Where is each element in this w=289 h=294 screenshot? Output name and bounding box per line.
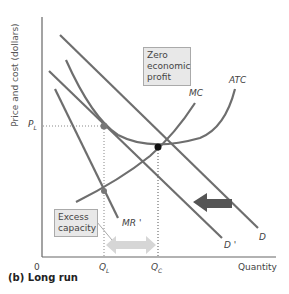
point-mc-mr-intersection xyxy=(101,188,107,194)
zero-profit-box: Zero economic profit xyxy=(143,47,191,86)
tick-q-c-sub: C xyxy=(158,267,162,274)
origin-label: 0 xyxy=(34,262,40,272)
point-long-run-equilibrium xyxy=(101,123,108,130)
point-min-atc xyxy=(155,144,162,151)
zero-profit-line1: Zero xyxy=(147,50,187,61)
chart-caption: (b) Long run xyxy=(8,272,78,283)
zero-profit-line2: economic xyxy=(147,61,187,72)
tick-p-l: PL xyxy=(28,119,37,131)
d-prime-label: D ' xyxy=(224,240,236,250)
y-axis-label: Price and cost (dollars) xyxy=(10,20,20,130)
d-label: D xyxy=(259,232,266,242)
mc-curve xyxy=(76,103,195,202)
excess-capacity-line2: capacity xyxy=(58,223,94,234)
chart-canvas xyxy=(0,0,289,294)
zero-profit-line3: profit xyxy=(147,72,187,83)
mr-label: MR ' xyxy=(122,218,141,228)
tick-q-l: QL xyxy=(99,262,109,274)
tick-q-c: QC xyxy=(151,262,162,274)
excess-capacity-box: Excess capacity xyxy=(54,209,98,237)
atc-label: ATC xyxy=(229,75,246,85)
tick-p-l-sub: L xyxy=(33,124,36,131)
mc-label: MC xyxy=(189,88,203,98)
x-axis-label: Quantity xyxy=(238,262,277,272)
excess-capacity-line1: Excess xyxy=(58,212,94,223)
excess-capacity-arrow xyxy=(106,236,156,254)
tick-q-l-sub: L xyxy=(106,267,109,274)
